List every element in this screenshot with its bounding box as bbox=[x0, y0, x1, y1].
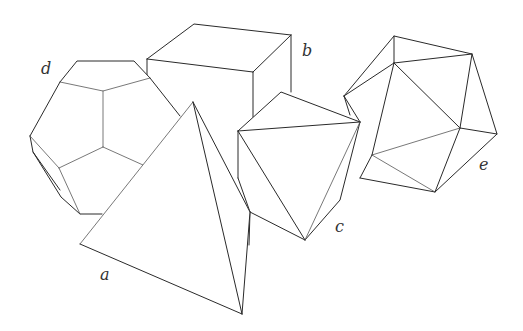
icosahedron-e bbox=[342, 36, 497, 192]
platonic-solids-diagram: a b c d e bbox=[0, 0, 523, 331]
label-e: e bbox=[479, 155, 488, 174]
label-a: a bbox=[100, 265, 110, 284]
label-b: b bbox=[302, 41, 312, 60]
label-c: c bbox=[335, 217, 344, 236]
label-d: d bbox=[41, 59, 51, 78]
